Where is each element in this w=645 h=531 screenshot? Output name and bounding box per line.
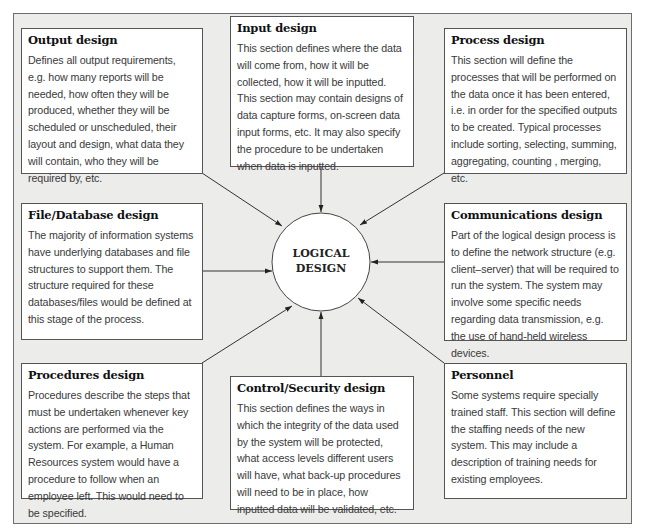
file-database-design-text: The majority of information systems have… <box>28 227 195 328</box>
output-design-text: Defines all output requirements, e.g. ho… <box>28 52 195 186</box>
control-security-design-box: Control/Security design This section def… <box>230 376 414 510</box>
output-design-title: Output design <box>28 33 195 47</box>
communications-design-text: Part of the logical design process is to… <box>451 227 619 361</box>
arrow-procedures <box>202 306 292 363</box>
process-design-text: This section will define the processes t… <box>451 52 619 186</box>
arrow-personnel <box>358 298 444 363</box>
file-database-design-box: File/Database design The majority of inf… <box>21 203 203 340</box>
communications-design-title: Communications design <box>451 208 619 222</box>
input-design-text: This section defines where the data will… <box>237 40 406 174</box>
input-design-title: Input design <box>237 21 406 35</box>
output-design-box: Output design Defines all output require… <box>21 28 203 174</box>
logical-design-label: LOGICAL DESIGN <box>272 246 370 276</box>
input-design-box: Input design This section defines where … <box>230 16 414 167</box>
procedures-design-text: Procedures describe the steps that must … <box>28 387 195 521</box>
arrow-process <box>360 173 444 225</box>
arrow-output <box>202 173 282 226</box>
file-database-design-title: File/Database design <box>28 208 195 222</box>
control-security-design-text: This section defines the ways in which t… <box>237 400 406 518</box>
logical-design-label-line1: LOGICAL <box>272 246 370 261</box>
personnel-title: Personnel <box>451 368 619 382</box>
personnel-box: Personnel Some systems require specially… <box>444 363 627 499</box>
personnel-text: Some systems require specially trained s… <box>451 387 619 488</box>
logical-design-label-line2: DESIGN <box>272 261 370 276</box>
control-security-design-title: Control/Security design <box>237 381 406 395</box>
process-design-box: Process design This section will define … <box>444 28 627 174</box>
process-design-title: Process design <box>451 33 619 47</box>
procedures-design-box: Procedures design Procedures describe th… <box>21 363 203 499</box>
communications-design-box: Communications design Part of the logica… <box>444 203 627 341</box>
procedures-design-title: Procedures design <box>28 368 195 382</box>
